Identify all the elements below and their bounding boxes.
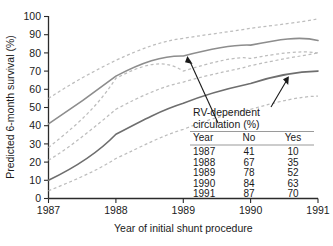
y-tick-label: 70 [29,65,41,77]
table-cell-no: 41 [243,146,255,157]
x-axis-title: Year of initial shunt procedure [114,222,253,234]
legend-title: RV-dependent circulation (%) [193,106,260,130]
table-cell-yes: 10 [287,146,299,157]
table-cell-yes: 52 [287,167,299,178]
x-tick-label: 1987 [37,204,61,216]
survival-curve-chart: 0 10 20 30 40 50 60 70 80 90 100 1987 19… [0,0,333,246]
x-tick-label: 1991 [306,204,330,216]
y-tick-label: 20 [29,156,41,168]
table-row: 1989 78 52 [193,167,299,178]
y-tick-label: 60 [29,83,41,95]
table-cell-year: 1988 [193,157,216,168]
table-cell-year: 1989 [193,167,216,178]
table-header-no: No [243,132,256,143]
table-cell-yes: 70 [287,188,299,199]
table-row: 1988 67 35 [193,157,299,168]
x-tick-label: 1988 [104,204,128,216]
arrow-to-no-curve-head [185,56,193,64]
y-tick-label: 40 [29,119,41,131]
arrow-to-yes-curve-head [283,76,289,85]
ci-curve-no-lower [49,52,319,148]
y-tick-label: 0 [35,192,41,204]
table-row: 1990 84 63 [193,178,299,189]
ci-curve-yes-lower [49,96,319,191]
ci-curve-yes-upper [49,53,319,160]
legend-title-line1: RV-dependent [193,106,260,118]
table-cell-yes: 35 [287,157,299,168]
x-tick-label: 1990 [239,204,263,216]
y-axis-ticks [44,17,49,199]
x-axis-tick-labels: 1987 1988 1989 1990 1991 [37,204,330,216]
table-cell-no: 67 [243,157,255,168]
y-tick-label: 90 [29,28,41,40]
table-cell-no: 78 [243,167,255,178]
table-cell-year: 1987 [193,146,216,157]
table-cell-no: 87 [243,188,255,199]
arrow-to-yes-curve-shaft [271,81,287,108]
x-tick-label: 1989 [172,204,196,216]
legend-data-table: Year No Yes 1987 41 10 1988 67 35 1989 7… [190,132,314,200]
table-header-year: Year [193,132,214,143]
y-tick-label: 100 [23,10,41,22]
table-header-yes: Yes [285,132,301,143]
y-axis-title: Predicted 6-month survival (%) [4,35,16,179]
figure-container: 0 10 20 30 40 50 60 70 80 90 100 1987 19… [0,0,333,246]
table-cell-no: 84 [243,178,255,189]
table-row: 1991 87 70 [193,188,299,199]
legend-title-line2: circulation (%) [193,118,260,130]
table-cell-yes: 63 [287,178,299,189]
y-tick-label: 30 [29,138,41,150]
y-tick-label: 50 [29,101,41,113]
y-tick-label: 10 [29,174,41,186]
y-tick-label: 80 [29,47,41,59]
x-axis-ticks [49,199,319,204]
table-cell-year: 1991 [193,188,216,199]
table-cell-year: 1990 [193,178,216,189]
survival-curve-yes-rv-dependent [49,71,319,180]
table-row: 1987 41 10 [193,146,299,157]
survival-curve-no-rv-dependent [49,38,319,124]
y-axis-tick-labels: 0 10 20 30 40 50 60 70 80 90 100 [23,10,41,204]
ci-curve-no-upper [49,19,319,99]
